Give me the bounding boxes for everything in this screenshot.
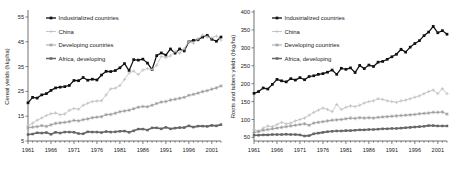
data-point-marker <box>376 116 380 120</box>
data-point-marker <box>266 88 269 91</box>
data-point-marker <box>391 127 394 130</box>
data-point-marker <box>155 102 159 106</box>
data-point-marker <box>436 31 439 34</box>
data-point-marker <box>77 119 81 123</box>
data-point-marker <box>50 57 53 60</box>
series-africa-developing <box>253 124 449 137</box>
data-point-marker <box>276 17 279 20</box>
data-point-marker <box>294 79 297 82</box>
series-africa-developing <box>27 123 223 135</box>
data-point-marker <box>220 123 223 126</box>
data-point-marker <box>192 39 195 42</box>
data-point-marker <box>49 112 52 115</box>
data-point-marker <box>445 112 449 116</box>
data-point-marker <box>418 39 421 42</box>
data-point-marker <box>400 48 403 51</box>
data-point-marker <box>331 130 334 133</box>
data-point-marker <box>372 128 375 131</box>
data-point-marker <box>178 97 182 101</box>
data-point-marker <box>290 133 293 136</box>
data-point-marker <box>372 65 375 68</box>
data-point-marker <box>404 51 407 54</box>
data-point-marker <box>271 127 275 131</box>
data-point-marker <box>54 122 58 126</box>
y-tick-label: 15 <box>18 113 24 119</box>
data-point-marker <box>174 127 177 130</box>
data-point-marker <box>335 130 338 133</box>
data-point-marker <box>109 131 112 134</box>
y-tick-label: 5 <box>21 138 24 144</box>
data-point-marker <box>164 100 168 104</box>
data-point-marker <box>395 53 398 56</box>
data-point-marker <box>307 123 311 127</box>
data-point-marker <box>197 125 200 128</box>
data-point-marker <box>40 124 44 128</box>
data-point-marker <box>205 89 209 93</box>
data-point-marker <box>132 58 135 61</box>
data-point-marker <box>432 124 435 127</box>
y-tick-label: 45 <box>18 39 24 45</box>
data-point-marker <box>165 126 168 129</box>
data-point-marker <box>317 121 321 125</box>
data-point-marker <box>331 69 334 72</box>
data-point-marker <box>395 114 399 118</box>
y-tick-label: 150 <box>241 99 250 105</box>
data-point-marker <box>413 42 416 45</box>
data-point-marker <box>367 100 370 103</box>
data-point-marker <box>50 17 53 20</box>
data-point-marker <box>280 79 283 82</box>
data-point-marker <box>192 126 195 129</box>
y-tick-label: 35 <box>18 64 24 70</box>
data-point-marker <box>123 130 126 133</box>
data-point-marker <box>413 113 417 117</box>
data-point-marker <box>257 130 261 134</box>
data-point-marker <box>41 132 44 135</box>
x-axis-ticks: 196119661971197619811986199119962001 <box>22 141 221 153</box>
data-point-marker <box>437 125 440 128</box>
data-point-marker <box>49 30 52 33</box>
x-tick-label: 2001 <box>432 147 444 153</box>
data-point-marker <box>91 131 94 134</box>
data-point-marker <box>418 94 421 97</box>
data-point-marker <box>27 133 30 136</box>
data-point-marker <box>276 133 279 136</box>
data-point-marker <box>422 112 426 116</box>
data-point-marker <box>404 113 408 117</box>
data-point-marker <box>27 101 30 104</box>
data-point-marker <box>358 129 361 132</box>
data-point-marker <box>349 67 352 70</box>
data-point-marker <box>303 135 306 138</box>
data-point-marker <box>215 125 218 128</box>
legend-label: Africa, developing <box>59 56 106 62</box>
data-point-marker <box>169 98 173 102</box>
data-point-marker <box>252 131 256 135</box>
figure-two-panel-yield-charts: Cereal yields (hkg/ha)515253545551961196… <box>0 0 452 175</box>
data-point-marker <box>386 128 389 131</box>
x-tick-label: 1996 <box>183 147 195 153</box>
data-point-marker <box>446 125 449 128</box>
data-point-marker <box>326 108 329 111</box>
data-point-marker <box>418 125 421 128</box>
data-point-marker <box>40 116 43 119</box>
data-point-marker <box>431 111 435 115</box>
y-axis-title: Cereal yields (hkg/ha) <box>4 48 10 104</box>
data-point-marker <box>284 125 288 129</box>
data-point-marker <box>155 127 158 130</box>
data-point-marker <box>142 128 145 131</box>
y-tick-label: 55 <box>18 14 24 20</box>
data-point-marker <box>322 131 325 134</box>
data-point-marker <box>285 81 288 84</box>
data-point-marker <box>183 126 186 129</box>
data-point-marker <box>285 133 288 136</box>
data-point-marker <box>211 124 214 127</box>
data-point-marker <box>376 97 379 100</box>
data-point-marker <box>276 57 279 60</box>
data-point-marker <box>427 111 431 115</box>
data-point-marker <box>298 118 301 121</box>
data-point-marker <box>31 125 35 129</box>
data-point-marker <box>127 108 131 112</box>
data-point-marker <box>26 126 30 130</box>
data-point-marker <box>381 98 384 101</box>
data-point-marker <box>271 133 274 136</box>
data-point-marker <box>262 134 265 137</box>
